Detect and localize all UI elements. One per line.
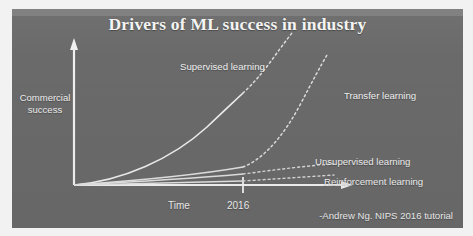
x-axis-tick-label-2016: 2016 [227, 200, 249, 211]
curve-label-reinforcement-learning: Reinforcement learning [324, 176, 423, 187]
curve-reinforcement-learning-dotted [243, 175, 334, 181]
chart-plot-area [12, 9, 463, 228]
presentation-slide: Drivers of ML success in industry Commer… [12, 9, 463, 228]
curve-label-supervised-learning: Supervised learning [180, 61, 265, 72]
attribution-text: -Andrew Ng. NIPS 2016 tutorial [319, 210, 453, 221]
curve-label-unsupervised-learning: Unsupervised learning [315, 156, 410, 167]
screenshot-page: Drivers of ML success in industry Commer… [0, 0, 473, 236]
y-axis [70, 38, 78, 185]
curve-label-transfer-learning: Transfer learning [344, 90, 416, 101]
arrow-up-icon [70, 38, 78, 50]
x-axis-label: Time [168, 200, 190, 211]
